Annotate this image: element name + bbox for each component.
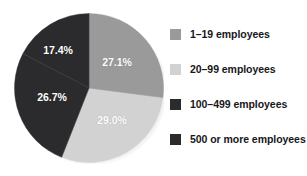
- legend-swatch-icon: [170, 64, 181, 75]
- legend-item-label: 500 or more employees: [190, 133, 306, 145]
- pie-slice-value-label: 26.7%: [37, 91, 66, 103]
- legend-item-label: 100–499 employees: [190, 98, 287, 110]
- legend-swatch-icon: [170, 134, 181, 145]
- pie-slice-value-label: 27.1%: [102, 56, 131, 68]
- chart-legend: 1–19 employees20–99 employees100–499 emp…: [170, 22, 305, 154]
- legend-item-label: 20–99 employees: [190, 63, 276, 75]
- pie-chart-svg: [14, 12, 164, 164]
- pie-slices: [14, 14, 163, 163]
- pie-slice-value-label: 17.4%: [43, 44, 72, 56]
- legend-item[interactable]: 20–99 employees: [170, 62, 276, 76]
- legend-swatch-icon: [170, 29, 181, 40]
- legend-swatch-icon: [170, 99, 181, 110]
- pie-chart: 27.1%29.0%26.7%17.4%: [14, 12, 164, 164]
- legend-item-label: 1–19 employees: [190, 28, 270, 40]
- legend-item[interactable]: 500 or more employees: [170, 132, 306, 146]
- pie-chart-figure: 27.1%29.0%26.7%17.4% 1–19 employees20–99…: [0, 0, 307, 176]
- legend-item[interactable]: 1–19 employees: [170, 27, 270, 41]
- legend-item[interactable]: 100–499 employees: [170, 97, 287, 111]
- pie-slice-value-label: 29.0%: [97, 114, 126, 126]
